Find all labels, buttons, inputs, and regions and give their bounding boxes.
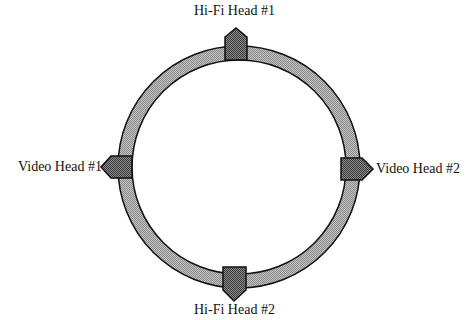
drum-ring xyxy=(118,46,360,288)
video-head-2-icon xyxy=(341,158,373,180)
hifi-head-1-icon xyxy=(225,28,247,60)
hifi-head-2-icon xyxy=(223,267,246,301)
hifi-head-2-label: Hi-Fi Head #2 xyxy=(194,302,275,318)
hifi-head-1-label: Hi-Fi Head #1 xyxy=(194,3,275,19)
video-head-1-icon xyxy=(101,156,132,178)
video-head-1-label: Video Head #1 xyxy=(18,159,102,175)
video-head-2-label: Video Head #2 xyxy=(376,161,460,177)
